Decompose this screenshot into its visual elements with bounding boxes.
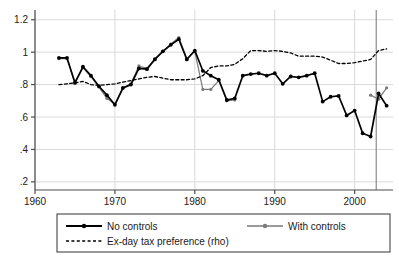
data-point	[121, 86, 125, 90]
chart-figure: .2.4.6.811.2 19601970198019902000 No con…	[0, 0, 399, 256]
data-point	[177, 37, 181, 41]
chart-legend: No controlsWith controlsEx-day tax prefe…	[57, 214, 390, 252]
data-point	[201, 88, 204, 91]
data-point	[73, 81, 77, 85]
line-chart: .2.4.6.811.2 19601970198019902000 No con…	[0, 0, 399, 256]
data-point	[345, 114, 349, 118]
data-point	[81, 65, 85, 69]
data-point	[385, 86, 388, 89]
x-tick-label-3: 1990	[264, 196, 287, 207]
data-point	[329, 95, 333, 99]
data-point	[361, 131, 365, 135]
data-point	[241, 74, 245, 78]
data-point	[233, 96, 237, 100]
data-point	[305, 74, 309, 78]
data-point	[129, 83, 133, 87]
data-point	[369, 94, 372, 97]
data-point	[89, 74, 93, 78]
y-tick-label-0: .2	[20, 176, 29, 187]
data-point	[193, 49, 197, 53]
x-tick-label-2: 1980	[184, 196, 207, 207]
y-tick-label-4: 1	[22, 47, 28, 58]
data-point	[201, 69, 205, 73]
y-tick-label-1: .4	[20, 144, 29, 155]
data-point	[265, 74, 269, 78]
legend-label: Ex-day tax preference (rho)	[107, 236, 229, 247]
data-point	[281, 82, 285, 86]
x-tick-label-4: 2000	[344, 196, 367, 207]
data-point	[313, 71, 317, 75]
data-point	[113, 103, 117, 107]
data-point	[209, 88, 212, 91]
data-point	[217, 78, 221, 82]
legend-key-marker	[82, 224, 86, 228]
data-point	[337, 94, 341, 98]
data-point	[169, 43, 173, 47]
data-point	[273, 71, 277, 75]
data-point	[377, 92, 381, 96]
data-point	[65, 56, 69, 60]
legend-key-marker	[263, 224, 267, 228]
data-point	[297, 75, 301, 79]
y-tick-label-5: 1.2	[14, 14, 28, 25]
data-point	[185, 58, 189, 62]
data-point	[209, 74, 213, 78]
data-point	[137, 66, 141, 70]
legend-label: With controls	[288, 221, 346, 232]
data-point	[145, 67, 149, 71]
legend-label: No controls	[107, 221, 158, 232]
y-tick-label-2: .6	[20, 112, 29, 123]
data-point	[353, 109, 357, 113]
x-tick-label-0: 1960	[24, 196, 47, 207]
data-point	[289, 75, 293, 79]
data-point	[385, 104, 389, 108]
data-point	[161, 49, 165, 53]
data-point	[225, 98, 229, 102]
data-point	[153, 58, 157, 62]
data-point	[249, 72, 253, 76]
data-point	[105, 93, 109, 97]
data-point	[369, 135, 373, 139]
data-point	[321, 100, 325, 104]
data-point	[257, 71, 261, 75]
data-point	[97, 84, 101, 88]
x-tick-label-1: 1970	[104, 196, 127, 207]
y-tick-label-3: .8	[20, 79, 29, 90]
data-point	[57, 56, 61, 60]
